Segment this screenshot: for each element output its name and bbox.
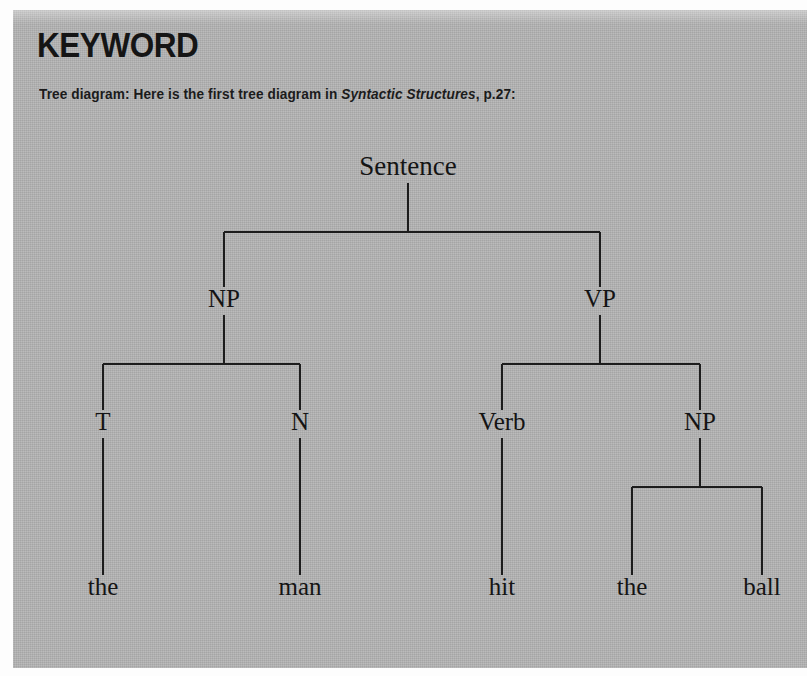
caption-prefix: Tree diagram: Here is the first tree dia… xyxy=(39,86,341,102)
tree-label-group: SentenceNPVPTNVerbNPthemanhittheball xyxy=(88,151,781,600)
tree-edge xyxy=(632,438,762,575)
tree-node-label: VP xyxy=(584,285,616,312)
tree-node-label: Sentence xyxy=(359,151,456,181)
tree-node-label: NP xyxy=(684,408,716,435)
tree-node-label: ball xyxy=(743,573,781,600)
tree-edge xyxy=(224,183,600,287)
tree-node-label: NP xyxy=(208,285,240,312)
keyword-panel: KEYWORD Tree diagram: Here is the first … xyxy=(13,10,807,668)
tree-node-label: hit xyxy=(489,573,515,600)
tree-node-label: the xyxy=(88,573,119,600)
tree-edge-group xyxy=(103,183,762,575)
tree-edge xyxy=(502,315,700,410)
page-title: KEYWORD xyxy=(37,24,198,66)
tree-node-label: man xyxy=(278,573,322,600)
syntax-tree-diagram: SentenceNPVPTNVerbNPthemanhittheball xyxy=(13,10,807,668)
tree-node-label: T xyxy=(95,408,110,435)
tree-node-label: N xyxy=(291,408,309,435)
caption-source-title: Syntactic Structures xyxy=(341,86,475,102)
tree-node-label: Verb xyxy=(478,408,525,435)
tree-edge xyxy=(103,315,300,410)
caption-suffix: , p.27: xyxy=(476,86,516,102)
figure-caption: Tree diagram: Here is the first tree dia… xyxy=(39,86,516,102)
tree-node-label: the xyxy=(617,573,648,600)
page-background: KEYWORD Tree diagram: Here is the first … xyxy=(0,0,807,676)
